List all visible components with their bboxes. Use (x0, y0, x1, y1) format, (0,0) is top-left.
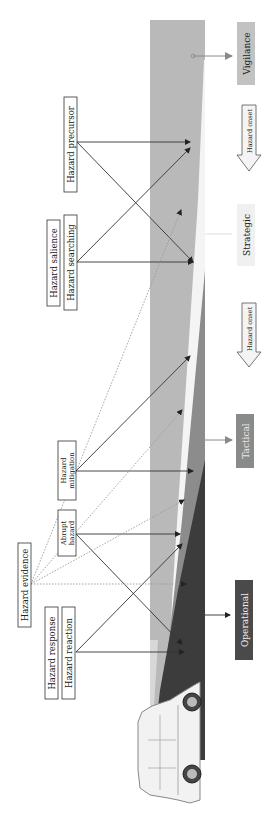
hazard-salience-box: Hazard salience (47, 220, 60, 306)
tactical-label: Tactical (241, 423, 251, 459)
hazard-mitigation-label-line2: mitigation (68, 452, 76, 489)
level-tactical: Tactical (236, 414, 254, 468)
hazard-salience-label: Hazard salience (49, 228, 59, 297)
hazard-onset-arrow-2: Hazard onset (237, 303, 261, 367)
level-operational: Operational (235, 580, 253, 660)
hazard-evidence-label: Hazard evidence (20, 549, 30, 622)
hazard-reaction-label: Hazard reaction (64, 618, 74, 688)
level-strategic: Strategic (237, 204, 255, 266)
hazard-response-label: Hazard response (47, 616, 57, 689)
hazard-onset-label-2: Hazard onset (246, 307, 254, 351)
hazard-reaction-box: Hazard reaction (62, 607, 75, 699)
operational-label: Operational (240, 593, 250, 647)
hazard-searching-box: Hazard searching (64, 215, 77, 310)
hazard-onset-label-1: Hazard onset (246, 109, 254, 153)
road-band (150, 20, 205, 760)
hazard-response-box: Hazard response (45, 607, 58, 699)
abrupt-hazard-box: Abrupt hazard (58, 510, 76, 556)
strategic-label: Strategic (242, 214, 252, 256)
hazard-mitigation-box: Hazard mitigation (58, 441, 76, 500)
hazard-levels-diagram: Vigilance Hazard onset Strategic Hazard … (0, 0, 276, 814)
car-side-icon (138, 682, 201, 803)
hazard-searching-label: Hazard searching (66, 224, 76, 301)
hazard-evidence-box: Hazard evidence (18, 543, 31, 627)
hazard-precursor-label: Hazard precursor (66, 105, 76, 183)
level-vigilance: Vigilance (237, 22, 255, 85)
hazard-precursor-box: Hazard precursor (64, 97, 77, 192)
abrupt-hazard-label-line2: hazard (68, 520, 76, 545)
hazard-onset-arrow-1: Hazard onset (237, 105, 261, 171)
vigilance-label: Vigilance (242, 32, 252, 75)
